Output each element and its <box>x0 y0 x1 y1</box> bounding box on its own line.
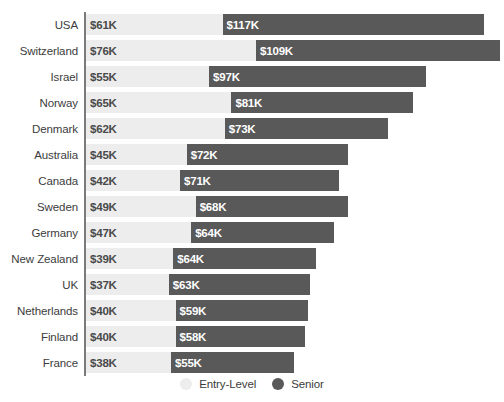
bar-value-label: $65K <box>90 97 117 109</box>
chart-row: Germany$47K$64K <box>0 220 504 246</box>
category-label: Denmark <box>0 123 84 135</box>
bar-segment-entry-level[interactable]: $76K <box>86 40 256 61</box>
bar-value-label: $71K <box>184 175 211 187</box>
stacked-bar[interactable]: $49K$68K <box>86 196 348 217</box>
bar-segment-senior[interactable]: $64K <box>191 222 334 243</box>
bar-value-label: $109K <box>260 45 293 57</box>
bar-track: $38K$55K <box>84 350 504 376</box>
chart-row: Netherlands$40K$59K <box>0 298 504 324</box>
category-label: Sweden <box>0 201 84 213</box>
category-label: France <box>0 357 84 369</box>
bar-value-label: $97K <box>213 71 240 83</box>
stacked-bar[interactable]: $39K$64K <box>86 248 316 269</box>
bar-segment-entry-level[interactable]: $39K <box>86 248 173 269</box>
bar-segment-entry-level[interactable]: $62K <box>86 118 225 139</box>
bar-track: $55K$97K <box>84 64 504 90</box>
bar-value-label: $73K <box>229 123 256 135</box>
bar-segment-senior[interactable]: $64K <box>173 248 316 269</box>
chart-row: Finland$40K$58K <box>0 324 504 350</box>
bar-segment-senior[interactable]: $58K <box>176 326 306 347</box>
legend-swatch-icon <box>180 378 192 390</box>
bar-segment-senior[interactable]: $109K <box>256 40 500 61</box>
bar-segment-senior[interactable]: $63K <box>169 274 310 295</box>
bar-value-label: $81K <box>235 97 262 109</box>
legend-swatch-icon <box>272 378 284 390</box>
category-label: Norway <box>0 97 84 109</box>
legend-label: Senior <box>291 378 324 390</box>
chart-row: Sweden$49K$68K <box>0 194 504 220</box>
stacked-bar[interactable]: $62K$73K <box>86 118 388 139</box>
bar-track: $61K$117K <box>84 12 504 38</box>
bar-segment-entry-level[interactable]: $49K <box>86 196 196 217</box>
bar-value-label: $117K <box>227 19 259 31</box>
bar-segment-entry-level[interactable]: $65K <box>86 92 231 113</box>
bar-segment-entry-level[interactable]: $40K <box>86 326 176 347</box>
chart-row: UK$37K$63K <box>0 272 504 298</box>
bar-value-label: $42K <box>90 175 117 187</box>
bar-segment-senior[interactable]: $68K <box>196 196 348 217</box>
stacked-bar[interactable]: $76K$109K <box>86 40 500 61</box>
bar-segment-entry-level[interactable]: $42K <box>86 170 180 191</box>
bar-value-label: $59K <box>180 305 207 317</box>
bar-value-label: $72K <box>191 149 218 161</box>
category-label: Australia <box>0 149 84 161</box>
bar-value-label: $64K <box>177 253 204 265</box>
bar-segment-senior[interactable]: $97K <box>209 66 426 87</box>
bar-segment-entry-level[interactable]: $40K <box>86 300 176 321</box>
bar-track: $37K$63K <box>84 272 504 298</box>
category-label: Canada <box>0 175 84 187</box>
chart-row: Switzerland$76K$109K <box>0 38 504 64</box>
legend-label: Entry-Level <box>199 378 256 390</box>
stacked-bar[interactable]: $47K$64K <box>86 222 334 243</box>
stacked-bar[interactable]: $38K$55K <box>86 352 294 373</box>
bar-track: $40K$59K <box>84 298 504 324</box>
stacked-bar[interactable]: $61K$117K <box>86 14 484 35</box>
stacked-bar[interactable]: $40K$59K <box>86 300 308 321</box>
stacked-bar[interactable]: $45K$72K <box>86 144 348 165</box>
bar-segment-senior[interactable]: $71K <box>180 170 339 191</box>
stacked-bar[interactable]: $40K$58K <box>86 326 305 347</box>
category-label: Germany <box>0 227 84 239</box>
bar-value-label: $39K <box>90 253 117 265</box>
bar-segment-senior[interactable]: $72K <box>187 144 348 165</box>
bar-segment-senior[interactable]: $117K <box>223 14 485 35</box>
bar-value-label: $40K <box>90 305 117 317</box>
bar-value-label: $63K <box>173 279 200 291</box>
chart-row: France$38K$55K <box>0 350 504 376</box>
legend-item[interactable]: Entry-Level <box>180 378 256 390</box>
category-label: UK <box>0 279 84 291</box>
chart-row: Canada$42K$71K <box>0 168 504 194</box>
category-label: Netherlands <box>0 305 84 317</box>
bar-segment-entry-level[interactable]: $55K <box>86 66 209 87</box>
chart-row: Denmark$62K$73K <box>0 116 504 142</box>
bar-value-label: $55K <box>90 71 117 83</box>
bar-value-label: $40K <box>90 331 117 343</box>
bar-track: $65K$81K <box>84 90 504 116</box>
category-label: Switzerland <box>0 45 84 57</box>
legend-item[interactable]: Senior <box>272 378 324 390</box>
stacked-bar[interactable]: $42K$71K <box>86 170 339 191</box>
chart-row: Norway$65K$81K <box>0 90 504 116</box>
bar-segment-senior[interactable]: $59K <box>176 300 308 321</box>
bar-segment-senior[interactable]: $55K <box>171 352 294 373</box>
bar-segment-entry-level[interactable]: $47K <box>86 222 191 243</box>
chart-plot-area: USA$61K$117KSwitzerland$76K$109KIsrael$5… <box>0 12 504 364</box>
bar-segment-entry-level[interactable]: $38K <box>86 352 171 373</box>
bar-track: $76K$109K <box>84 38 504 64</box>
bar-value-label: $49K <box>90 201 117 213</box>
stacked-bar[interactable]: $37K$63K <box>86 274 310 295</box>
chart-row: Australia$45K$72K <box>0 142 504 168</box>
bar-track: $49K$68K <box>84 194 504 220</box>
bar-segment-entry-level[interactable]: $45K <box>86 144 187 165</box>
bar-value-label: $61K <box>90 19 117 31</box>
bar-track: $42K$71K <box>84 168 504 194</box>
stacked-bar[interactable]: $55K$97K <box>86 66 426 87</box>
chart-row: New Zealand$39K$64K <box>0 246 504 272</box>
bar-segment-entry-level[interactable]: $61K <box>86 14 223 35</box>
bar-segment-senior[interactable]: $81K <box>231 92 412 113</box>
bar-segment-senior[interactable]: $73K <box>225 118 388 139</box>
bar-value-label: $37K <box>90 279 117 291</box>
stacked-bar[interactable]: $65K$81K <box>86 92 413 113</box>
bar-value-label: $47K <box>90 227 117 239</box>
bar-segment-entry-level[interactable]: $37K <box>86 274 169 295</box>
